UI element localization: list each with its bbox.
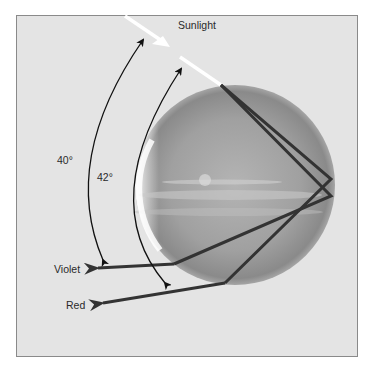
arc-40-degrees	[88, 40, 143, 260]
red-exit-ray	[103, 283, 225, 303]
sunlight-label: Sunlight	[178, 19, 216, 31]
water-droplet	[133, 85, 335, 285]
violet-exit-ray	[98, 264, 174, 268]
violet-label: Violet	[54, 263, 80, 275]
angle-40-label: 40°	[57, 154, 73, 166]
rainbow-diagram	[0, 0, 375, 370]
angle-42-label: 42°	[97, 171, 113, 183]
red-label: Red	[66, 299, 85, 311]
